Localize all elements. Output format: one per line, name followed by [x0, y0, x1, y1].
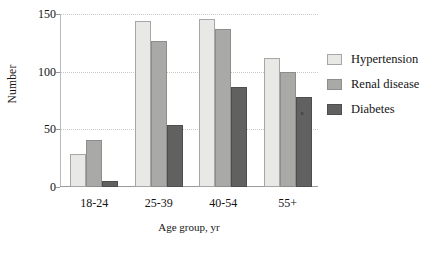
bar-group — [135, 14, 183, 187]
bar — [167, 125, 183, 187]
x-tick-label: 55+ — [253, 196, 323, 211]
bar — [231, 87, 247, 187]
bar-chart: Number 0 50 100 150 s 18-2425-3940-5455+… — [0, 0, 439, 254]
bar — [264, 58, 280, 187]
y-tick-label: 0 — [22, 181, 56, 193]
y-tick-label: 150 — [22, 8, 56, 20]
bar — [280, 72, 296, 187]
bar-group — [199, 14, 247, 187]
bar-group — [70, 14, 118, 187]
bar — [215, 29, 231, 187]
bar — [70, 154, 86, 187]
bar-group: s — [264, 14, 312, 187]
bar-annotation: s — [301, 109, 304, 117]
bar — [86, 140, 102, 187]
y-tick-label: 100 — [22, 66, 56, 78]
legend-label: Renal disease — [351, 77, 419, 92]
legend-label: Diabetes — [351, 102, 395, 117]
legend-label: Hypertension — [351, 52, 418, 67]
y-axis-title: Number — [6, 49, 18, 119]
bar — [199, 19, 215, 187]
chart-legend: HypertensionRenal diseaseDiabetes — [327, 47, 439, 122]
x-tick-label: 25-39 — [124, 196, 194, 211]
y-tick-mark — [56, 187, 60, 188]
x-tick-label: 18-24 — [59, 196, 129, 211]
legend-item: Renal disease — [327, 72, 439, 97]
x-axis-title: Age group, yr — [60, 221, 318, 233]
bar — [102, 181, 118, 187]
bar — [151, 41, 167, 187]
plot-area: s — [60, 14, 318, 187]
bar: s — [296, 97, 312, 187]
legend-swatch — [327, 54, 342, 65]
legend-swatch — [327, 104, 342, 115]
bar — [135, 21, 151, 187]
x-tick-label: 40-54 — [188, 196, 258, 211]
y-tick-label: 50 — [22, 123, 56, 135]
legend-swatch — [327, 79, 342, 90]
y-axis-tick-labels: 0 50 100 150 — [20, 0, 56, 254]
x-axis-tick-labels: 18-2425-3940-5455+ — [60, 196, 318, 214]
bar-groups: s — [60, 14, 318, 187]
legend-item: Diabetes — [327, 97, 439, 122]
legend-item: Hypertension — [327, 47, 439, 72]
